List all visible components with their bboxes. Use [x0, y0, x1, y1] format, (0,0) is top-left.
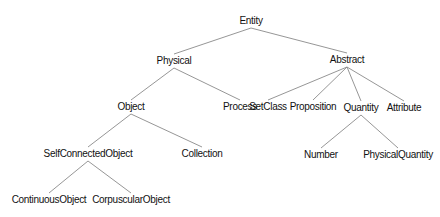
edge-selfconnectedobject-corpuscularobject [88, 161, 131, 193]
edge-object-collection [131, 114, 202, 147]
edge-abstract-proposition [313, 67, 347, 100]
node-proposition: Proposition [290, 102, 337, 112]
edge-object-selfconnectedobject [88, 114, 131, 147]
node-setclass: SetClass [249, 102, 287, 112]
node-object: Object [117, 102, 144, 112]
node-corpuscularobject: CorpuscularObject [92, 195, 170, 205]
node-physicalquantity: PhysicalQuantity [363, 150, 433, 160]
node-entity: Entity [239, 16, 262, 26]
node-abstract: Abstract [330, 55, 364, 65]
edge-entity-physical [174, 28, 251, 54]
edge-abstract-attribute [347, 67, 404, 101]
edge-abstract-quantity [347, 67, 361, 101]
edge-entity-abstract [251, 28, 347, 53]
node-attribute: Attribute [387, 103, 422, 113]
node-selfconnectedobject: SelfConnectedObject [44, 149, 133, 159]
edge-quantity-number [321, 115, 361, 148]
edge-abstract-setclass [268, 67, 347, 100]
node-physical: Physical [157, 56, 192, 66]
edge-physical-object [131, 68, 174, 100]
edge-selfconnectedobject-continuousobject [49, 161, 88, 193]
node-continuousobject: ContinuousObject [12, 195, 87, 205]
node-quantity: Quantity [344, 103, 379, 113]
node-number: Number [304, 150, 338, 160]
edge-physical-process [174, 68, 240, 100]
edge-quantity-physicalquantity [361, 115, 398, 148]
node-collection: Collection [182, 149, 223, 159]
